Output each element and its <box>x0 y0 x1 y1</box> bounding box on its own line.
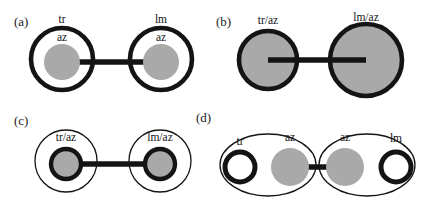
panel-d-lm-ring <box>381 152 411 182</box>
panel-c-right-core <box>145 149 175 179</box>
panel-a-right-core-label: az <box>156 31 166 43</box>
panel-a-left-core <box>44 44 80 80</box>
diagram-svg: trlmazaz(a)tr/azlm/az(b)tr/azlm/az(c)tra… <box>0 0 423 207</box>
panel-a-right-shell-label: lm <box>155 13 167 25</box>
panel-d-right-az-disc <box>326 148 364 186</box>
panel-a-left-shell-label: tr <box>58 13 65 25</box>
panel-d-left-az-disc <box>271 148 309 186</box>
panel-b <box>239 24 402 96</box>
panel-d-right-az-disc-label: az <box>340 131 350 143</box>
panel-c-right-shell-label: lm/az <box>147 131 173 143</box>
panel-a-right-core <box>143 44 179 80</box>
panel-a-left-core-label: az <box>57 31 67 43</box>
panel-label-a: (a) <box>14 14 28 29</box>
panel-d-tr-ring-label: tr <box>236 135 243 147</box>
panel-a <box>31 28 192 90</box>
panel-label-b: (b) <box>216 14 231 29</box>
panel-d <box>220 134 415 196</box>
panel-c-left-shell-label: tr/az <box>56 131 76 143</box>
panel-c-left-core <box>51 149 81 179</box>
panel-d-tr-ring <box>225 152 255 182</box>
panel-d-lm-ring-label: lm <box>390 132 402 144</box>
figure-canvas: trlmazaz(a)tr/azlm/az(b)tr/azlm/az(c)tra… <box>0 0 423 207</box>
panel-b-left-disc-label: tr/az <box>258 14 278 26</box>
panel-label-d: (d) <box>196 110 211 125</box>
panel-d-left-az-disc-label: az <box>285 131 295 143</box>
panel-b-right-disc-label: lm/az <box>353 11 379 23</box>
panel-label-c: (c) <box>14 113 28 128</box>
